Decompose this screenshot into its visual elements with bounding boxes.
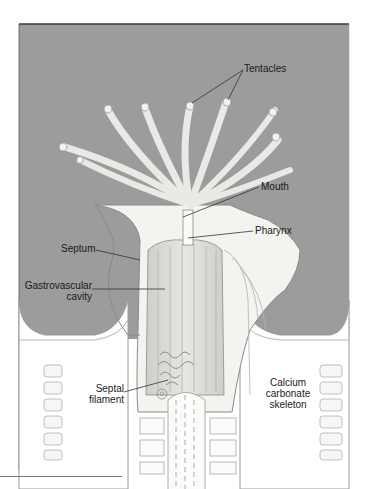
label-mouth: Mouth xyxy=(261,181,289,192)
label-gastrovascular-line1: Gastrovascular xyxy=(22,280,92,291)
polyp-illustration xyxy=(0,0,367,489)
label-calcium-line1: Calcium xyxy=(258,377,318,388)
label-pharynx: Pharynx xyxy=(255,225,292,236)
label-tentacles: Tentacles xyxy=(244,63,286,74)
label-gastrovascular-cavity: Gastrovascular cavity xyxy=(22,280,92,302)
coral-polyp-diagram: Tentacles Mouth Pharynx Septum Gastrovas… xyxy=(0,0,367,489)
label-septal-filament: Septal filament xyxy=(80,383,124,405)
label-septal-line1: Septal xyxy=(80,383,124,394)
label-calcium-line3: skeleton xyxy=(258,399,318,410)
label-calcium-line2: carbonate xyxy=(258,388,318,399)
label-gastrovascular-line2: cavity xyxy=(22,291,92,302)
label-septum: Septum xyxy=(61,243,95,254)
label-septal-line2: filament xyxy=(80,394,124,405)
bottom-rule-divider xyxy=(0,476,122,477)
label-calcium-carbonate-skeleton: Calcium carbonate skeleton xyxy=(258,377,318,410)
